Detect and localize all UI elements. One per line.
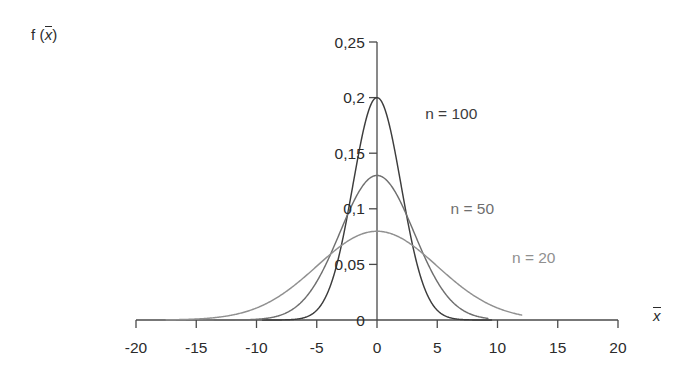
series-label-2: n = 20 xyxy=(512,250,556,266)
y-tick-label: 0 xyxy=(295,313,365,329)
series-label-0: n = 100 xyxy=(425,106,477,122)
x-tick-label: 10 xyxy=(468,340,528,356)
series-label-1: n = 50 xyxy=(451,201,495,217)
x-tick-label: 15 xyxy=(528,340,588,356)
x-tick-label: -10 xyxy=(227,340,287,356)
x-tick-label: 20 xyxy=(588,340,648,356)
y-axis-label-variable: x xyxy=(45,27,53,42)
y-tick-label: 0,05 xyxy=(295,257,365,273)
y-axis-label-paren: ) xyxy=(52,26,57,43)
x-tick-label: 5 xyxy=(407,340,467,356)
y-axis-label-fn: f ( xyxy=(31,26,45,43)
x-tick-label: -20 xyxy=(106,340,166,356)
y-tick-label: 0,1 xyxy=(295,201,365,217)
y-tick-label: 0,25 xyxy=(295,35,365,51)
curve-series-2 xyxy=(166,231,521,320)
x-tick-label: -5 xyxy=(287,340,347,356)
y-tick-label: 0,2 xyxy=(295,90,365,106)
axes-group xyxy=(136,42,618,328)
x-tick-label: -15 xyxy=(166,340,226,356)
y-axis-label: f (x) xyxy=(31,27,57,42)
y-tick-label: 0,15 xyxy=(295,146,365,162)
x-axis-label-variable: x xyxy=(653,308,661,323)
x-tick-label: 0 xyxy=(347,340,407,356)
chart-figure: f (x) x 00,050,10,150,20,25 -20-15-10-50… xyxy=(0,0,696,375)
x-axis-label: x xyxy=(653,308,661,323)
